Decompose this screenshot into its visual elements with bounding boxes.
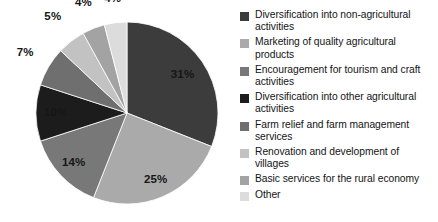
legend-item-label: Diversification into non-agricultural ac… bbox=[255, 9, 433, 33]
legend-item-label: Renovation and development of villages bbox=[255, 146, 433, 170]
legend-swatch-icon bbox=[240, 176, 249, 185]
pie-slice-label: 4% bbox=[104, 0, 121, 5]
legend-item-label: Encouragement for tourism and craft acti… bbox=[255, 64, 433, 88]
legend-swatch-icon bbox=[240, 39, 249, 48]
pie-plot-area: 31%25%14%10%7%5%4%4% bbox=[0, 0, 238, 222]
legend-swatch-icon bbox=[240, 149, 249, 158]
legend-item[interactable]: Marketing of quality agricultural produc… bbox=[240, 36, 436, 60]
legend-item-label: Marketing of quality agricultural produc… bbox=[255, 36, 433, 60]
legend-item-label: Basic services for the rural economy bbox=[255, 173, 419, 185]
pie-slice-label: 5% bbox=[44, 11, 61, 23]
pie-chart-figure: 31%25%14%10%7%5%4%4% Diversification int… bbox=[0, 0, 438, 222]
legend-swatch-icon bbox=[240, 94, 249, 103]
legend-item[interactable]: Basic services for the rural economy bbox=[240, 173, 436, 185]
legend-item[interactable]: Diversification into non-agricultural ac… bbox=[240, 9, 436, 33]
legend-swatch-icon bbox=[240, 192, 249, 201]
legend-item[interactable]: Encouragement for tourism and craft acti… bbox=[240, 64, 436, 88]
pie-slice-label: 31% bbox=[171, 69, 195, 81]
pie-svg bbox=[0, 0, 238, 222]
pie-slice-label: 25% bbox=[144, 174, 168, 186]
chart-legend: Diversification into non-agricultural ac… bbox=[240, 9, 436, 204]
legend-item[interactable]: Renovation and development of villages bbox=[240, 146, 436, 170]
legend-item-label: Farm relief and farm management services bbox=[255, 119, 433, 143]
legend-swatch-icon bbox=[240, 67, 249, 76]
legend-swatch-icon bbox=[240, 122, 249, 131]
pie-slice-label: 7% bbox=[17, 47, 34, 59]
legend-swatch-icon bbox=[240, 12, 249, 21]
legend-item-label: Other bbox=[255, 189, 281, 201]
legend-item-label: Diversification into other agricultural … bbox=[255, 91, 433, 115]
pie-slice-label: 4% bbox=[75, 0, 92, 9]
legend-item[interactable]: Diversification into other agricultural … bbox=[240, 91, 436, 115]
legend-item[interactable]: Other bbox=[240, 189, 436, 201]
legend-item[interactable]: Farm relief and farm management services bbox=[240, 119, 436, 143]
pie-slice-label: 14% bbox=[62, 157, 86, 169]
pie-slice-label: 10% bbox=[44, 107, 68, 119]
